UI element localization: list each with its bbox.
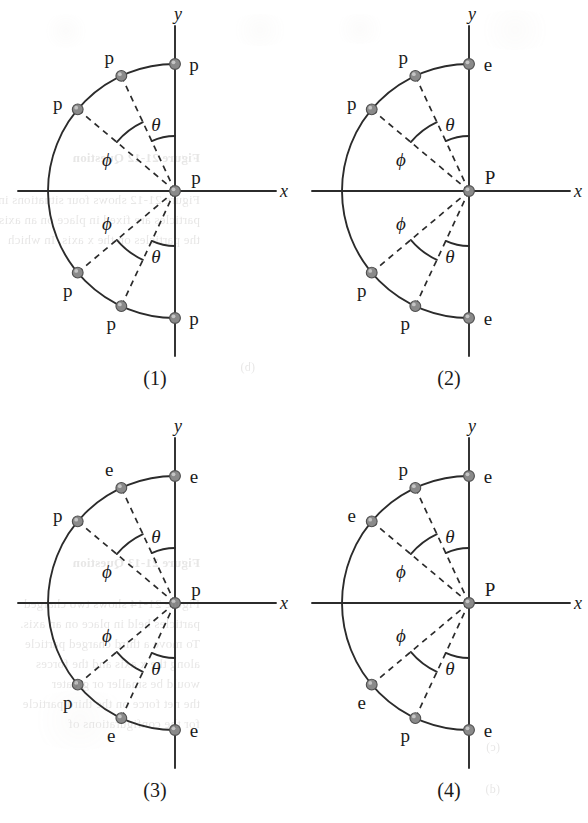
phi-angle-arc-bottom [117, 240, 143, 260]
node-phi-top-label: p [347, 93, 357, 114]
phi-angle-arc-bottom [117, 652, 143, 672]
node-phi-bottom-label: p [63, 692, 73, 713]
node-theta-top [116, 482, 127, 493]
phi-angle-arc-top [411, 122, 437, 142]
node-theta-bottom-label: e [107, 725, 115, 746]
node-y-bottom-label: p [189, 308, 199, 329]
theta-label-top: θ [445, 526, 454, 547]
node-phi-top-label: p [53, 93, 63, 114]
dashed-radius-line [415, 76, 469, 191]
theta-angle-arc-top [152, 136, 175, 141]
node-phi-top [366, 516, 377, 527]
node-y-bottom-label: e [190, 720, 198, 741]
dashed-radius-line [121, 603, 175, 718]
node-y-top-label: p [189, 54, 199, 75]
phi-angle-arc-top [411, 534, 437, 554]
dashed-radius-line [415, 488, 469, 603]
node-theta-top-label: e [105, 459, 113, 480]
node-phi-bottom-label: p [357, 280, 367, 301]
theta-angle-arc-top [152, 548, 175, 553]
node-y-bottom [170, 725, 181, 736]
node-y-bottom [464, 313, 475, 324]
node-y-top [464, 59, 475, 70]
node-phi-bottom [72, 679, 83, 690]
phi-angle-arc-top [117, 122, 143, 142]
node-phi-bottom [366, 267, 377, 278]
node-phi-bottom-label: e [357, 692, 365, 713]
y-axis-label: y [466, 4, 476, 24]
phi-angle-arc-top [117, 534, 143, 554]
node-theta-bottom [410, 301, 421, 312]
phi-label-top: ϕ [102, 561, 112, 582]
node-phi-top [72, 516, 83, 527]
theta-label-top: θ [151, 114, 160, 135]
x-axis-label: x [573, 181, 582, 201]
phi-label-bottom: ϕ [102, 625, 112, 646]
theta-angle-arc-top [446, 548, 469, 553]
dashed-radius-line [121, 191, 175, 306]
theta-angle-arc-top [446, 136, 469, 141]
theta-label-bottom: θ [151, 658, 160, 679]
panel-2: θθϕϕxyeppppeP(2) [294, 0, 588, 411]
node-phi-top [366, 104, 377, 115]
dashed-radius-line [121, 76, 175, 191]
node-theta-top-label: p [105, 47, 115, 68]
node-theta-top [410, 70, 421, 81]
node-center-label: P [485, 167, 496, 188]
node-center [464, 186, 475, 197]
node-theta-bottom-label: p [401, 313, 411, 334]
node-theta-top [116, 70, 127, 81]
dashed-radius-line [415, 603, 469, 718]
phi-angle-arc-bottom [411, 652, 437, 672]
node-theta-bottom-label: p [401, 725, 411, 746]
node-center-label: p [191, 167, 201, 188]
phi-angle-arc-bottom [411, 240, 437, 260]
dashed-radius-line [121, 488, 175, 603]
panel-3: θθϕϕxyeeppeep(3) [0, 412, 294, 823]
node-theta-top-label: p [399, 47, 409, 68]
panel-1: θθϕϕxyppppppp(1) [0, 0, 294, 411]
theta-label-top: θ [445, 114, 454, 135]
phi-label-top: ϕ [396, 149, 406, 170]
node-theta-top [410, 482, 421, 493]
phi-label-bottom: ϕ [396, 625, 406, 646]
node-y-bottom [464, 725, 475, 736]
panel-caption: (4) [437, 779, 460, 802]
phi-label-bottom: ϕ [396, 213, 406, 234]
figure-panel-grid: θθϕϕxyppppppp(1)θθϕϕxyeppppeP(2)θθϕϕxyee… [0, 0, 588, 823]
x-axis-label: x [279, 593, 288, 613]
theta-label-bottom: θ [445, 658, 454, 679]
x-axis-label: x [279, 181, 288, 201]
theta-label-bottom: θ [151, 246, 160, 267]
node-phi-bottom [72, 267, 83, 278]
theta-label-top: θ [151, 526, 160, 547]
node-phi-bottom [366, 679, 377, 690]
node-center [170, 598, 181, 609]
node-center-label: P [485, 579, 496, 600]
node-y-bottom [170, 313, 181, 324]
panel-caption: (2) [437, 367, 460, 390]
node-y-bottom-label: e [484, 720, 492, 741]
node-theta-bottom [410, 713, 421, 724]
node-center [464, 598, 475, 609]
node-phi-top [72, 104, 83, 115]
node-y-top-label: e [484, 54, 492, 75]
dashed-radius-line [415, 191, 469, 306]
panel-caption: (1) [143, 367, 166, 390]
node-theta-bottom-label: p [107, 313, 117, 334]
y-axis-label: y [466, 416, 476, 436]
phi-label-top: ϕ [102, 149, 112, 170]
node-theta-bottom [116, 713, 127, 724]
x-axis-label: x [573, 593, 582, 613]
node-y-top-label: e [190, 466, 198, 487]
node-phi-top-label: e [347, 505, 355, 526]
node-y-top [464, 471, 475, 482]
phi-label-bottom: ϕ [102, 213, 112, 234]
y-axis-label: y [172, 416, 182, 436]
node-y-top [170, 59, 181, 70]
node-phi-bottom-label: p [63, 280, 73, 301]
node-theta-bottom [116, 301, 127, 312]
node-y-top-label: e [484, 466, 492, 487]
phi-label-top: ϕ [396, 561, 406, 582]
node-y-top [170, 471, 181, 482]
